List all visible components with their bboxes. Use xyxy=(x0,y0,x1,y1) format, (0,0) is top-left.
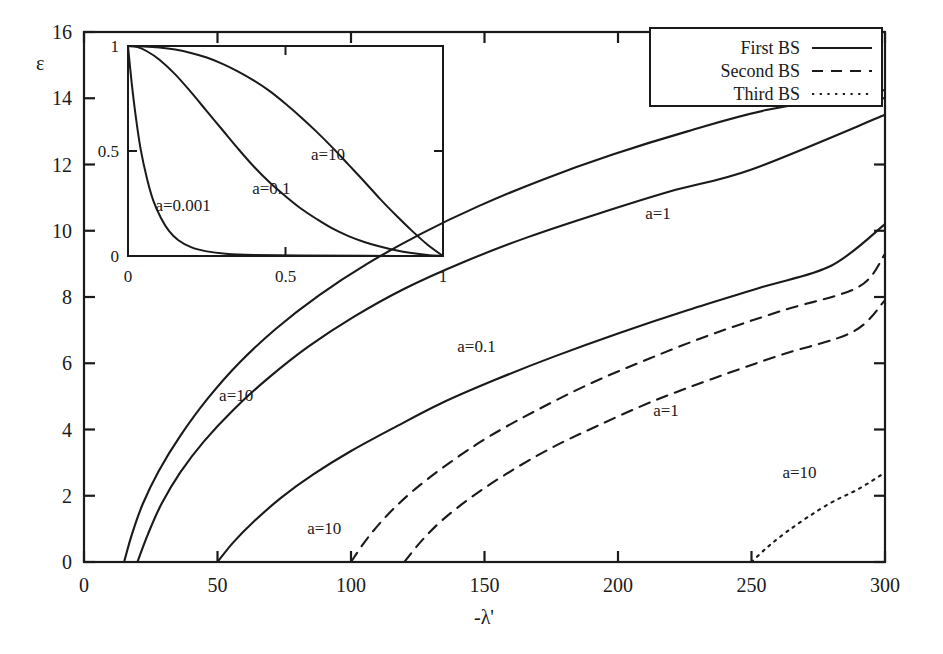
y-tick-label: 10 xyxy=(52,220,72,242)
x-tick-label: 0 xyxy=(79,574,89,596)
x-tick-label: 50 xyxy=(208,574,228,596)
inset-x-tick-label: 0.5 xyxy=(275,267,296,286)
y-tick-label: 4 xyxy=(62,419,72,441)
x-axis-title: -λ' xyxy=(474,606,494,628)
legend-label: Third BS xyxy=(733,84,800,104)
series-annotation: a=1 xyxy=(653,401,679,420)
series-annotation: a=0.1 xyxy=(457,337,495,356)
inset-x-tick-label: 1 xyxy=(439,267,448,286)
series-annotation: a=1 xyxy=(645,204,671,223)
y-tick-label: 0 xyxy=(62,551,72,573)
y-axis-title: ε xyxy=(36,52,44,74)
x-tick-label: 100 xyxy=(336,574,366,596)
series-annotation: a=10 xyxy=(219,386,253,405)
x-tick-label: 300 xyxy=(870,574,900,596)
y-tick-label: 8 xyxy=(62,286,72,308)
y-tick-label: 6 xyxy=(62,352,72,374)
legend-label: Second BS xyxy=(720,61,800,81)
legend: First BSSecond BSThird BS xyxy=(650,28,882,106)
y-tick-label: 12 xyxy=(52,154,72,176)
inset-y-tick-label: 0.5 xyxy=(98,142,119,161)
inset-y-tick-label: 1 xyxy=(111,37,120,56)
inset-x-tick-label: 0 xyxy=(124,267,133,286)
x-tick-label: 200 xyxy=(603,574,633,596)
y-tick-label: 16 xyxy=(52,21,72,43)
inset-series-annotation: a=10 xyxy=(311,145,345,164)
inset-y-tick-label: 0 xyxy=(111,247,120,266)
y-tick-label: 14 xyxy=(52,87,72,109)
chart-canvas: 0246810121416 050100150200250300 a=10a=1… xyxy=(0,0,943,654)
inset-series-annotation: a=0.1 xyxy=(252,179,290,198)
legend-label: First BS xyxy=(740,38,800,58)
series-annotation: a=10 xyxy=(307,519,341,538)
inset-series-annotation: a=0.001 xyxy=(155,196,210,215)
x-tick-label: 250 xyxy=(737,574,767,596)
figure-root: 0246810121416 050100150200250300 a=10a=1… xyxy=(0,0,943,654)
y-tick-label: 2 xyxy=(62,485,72,507)
series-annotation: a=10 xyxy=(782,463,816,482)
x-tick-label: 150 xyxy=(470,574,500,596)
